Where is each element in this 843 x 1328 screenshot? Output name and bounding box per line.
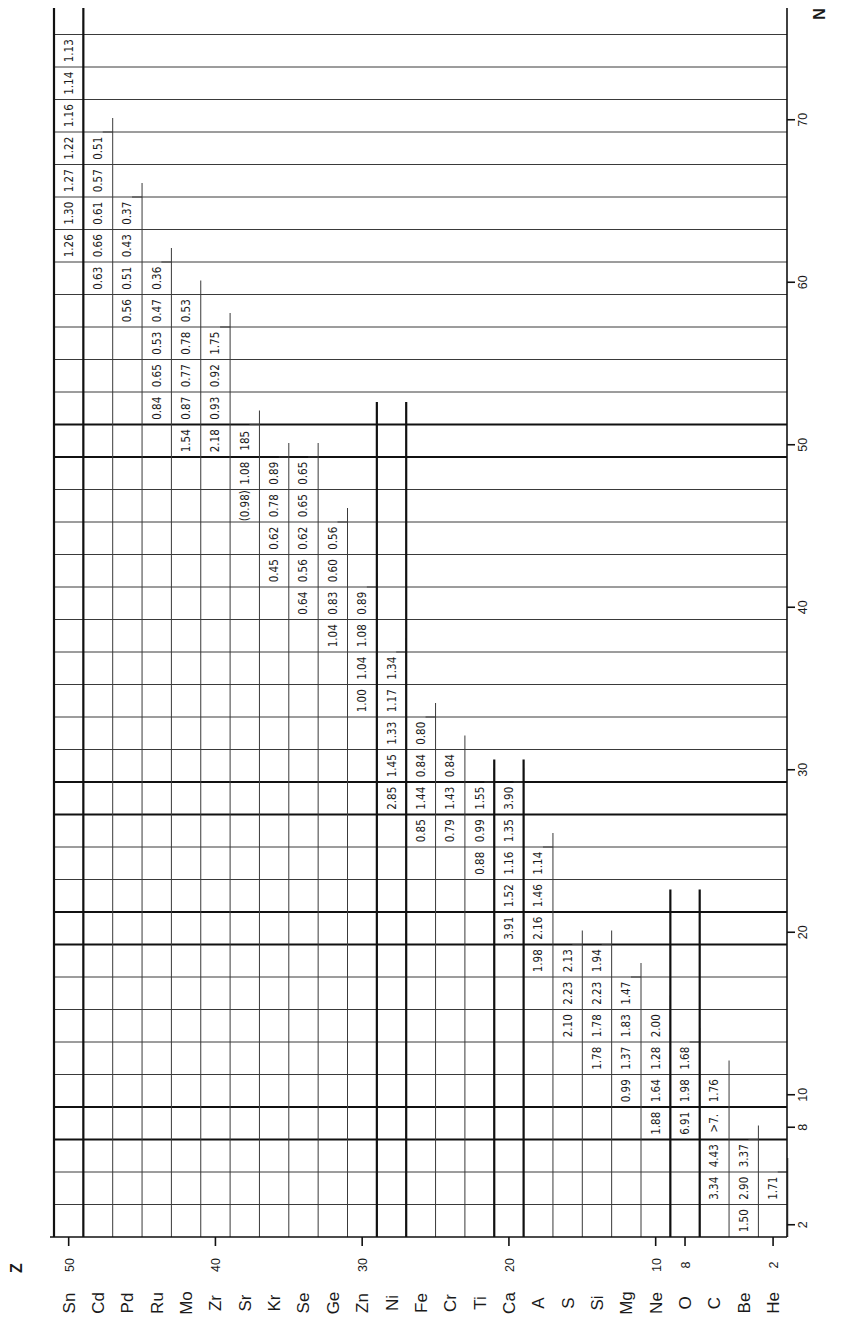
element-symbol: O (676, 1296, 695, 1309)
element-symbol: Ru (148, 1292, 167, 1314)
element-symbol: Ti (471, 1296, 490, 1310)
cell-value: 0.84 (443, 754, 457, 777)
z-tick-label: 50 (63, 1258, 77, 1272)
cell-value: 0.93 (208, 397, 222, 420)
cell-value: 1.68 (678, 1047, 692, 1070)
element-symbol: Fe (412, 1293, 431, 1313)
cell-value: 1.37 (619, 1047, 633, 1070)
cell-value: 0.57 (91, 169, 105, 192)
cell-value: 0.60 (326, 559, 340, 582)
z-axis-title: Z (8, 1263, 25, 1273)
cell-value: 0.89 (355, 592, 369, 615)
cell-value: 1.30 (62, 202, 76, 225)
cell-value: 1.08 (355, 624, 369, 647)
cell-value: 1.33 (385, 722, 399, 745)
element-symbol: S (559, 1297, 578, 1308)
cell-value: 0.51 (91, 137, 105, 160)
cell-value: 0.80 (414, 722, 428, 745)
cell-value: 3.37 (737, 1144, 751, 1167)
cell-value: 1.46 (531, 884, 545, 907)
cell-value: 0.92 (208, 364, 222, 387)
element-symbol: Ne (647, 1292, 666, 1314)
element-symbol: Sr (236, 1294, 255, 1311)
cell-value: 2.10 (561, 1014, 575, 1037)
element-symbol: He (764, 1292, 783, 1314)
cell-value: 1.83 (619, 1014, 633, 1037)
cell-value: 0.88 (473, 852, 487, 875)
element-symbol: Ca (500, 1292, 519, 1314)
cell-value: 0.56 (120, 299, 134, 322)
cell-value: 0.84 (414, 754, 428, 777)
element-symbol: Si (588, 1295, 607, 1310)
n-tick-label: 2 (796, 1221, 810, 1228)
n-axis-title: N (811, 8, 828, 20)
z-tick-label: 10 (650, 1258, 664, 1272)
cell-value: 1.22 (62, 137, 76, 160)
cell-value: 0.65 (296, 462, 310, 485)
cell-value: 1.13 (62, 39, 76, 62)
cell-value: 0.84 (150, 397, 164, 420)
cell-value: 0.53 (179, 299, 193, 322)
cell-value: 0.62 (296, 527, 310, 550)
cell-value: 2.90 (737, 1177, 751, 1200)
n-tick-label: 20 (796, 925, 810, 939)
cell-value: 0.87 (179, 397, 193, 420)
z-tick-label: 20 (503, 1258, 517, 1272)
n-tick-label: 40 (796, 600, 810, 614)
element-symbol: A (529, 1297, 548, 1309)
cell-value: 1.78 (590, 1014, 604, 1037)
z-tick-label: 40 (209, 1258, 223, 1272)
cell-value: 0.99 (619, 1079, 633, 1102)
element-symbol: Cr (441, 1294, 460, 1312)
cell-value: 0.89 (267, 462, 281, 485)
cell-value: 1.44 (414, 787, 428, 810)
cell-value: 0.77 (179, 364, 193, 387)
cell-value: 0.85 (414, 819, 428, 842)
cell-value: 1.14 (62, 72, 76, 95)
cell-value: 1.26 (62, 234, 76, 257)
n-tick-label: 50 (796, 438, 810, 452)
nuclide-chart: 1.131.141.161.221.271.301.260.510.570.61… (0, 0, 843, 1328)
cell-value: 0.51 (120, 267, 134, 290)
cell-value: 1.45 (385, 754, 399, 777)
cell-value: 0.37 (120, 202, 134, 225)
cell-value: 1.47 (619, 982, 633, 1005)
cell-value: >7. (707, 1114, 721, 1133)
cell-value: 1.14 (531, 852, 545, 875)
cell-value: 3.34 (707, 1177, 721, 1200)
cell-value: 1.64 (649, 1079, 663, 1102)
cell-value: 1.17 (385, 689, 399, 712)
cell-value: 1.54 (179, 429, 193, 452)
element-symbol: Sn (60, 1293, 79, 1314)
axes: 504030201082Z2810203040506070N (8, 8, 828, 1273)
cell-value: 0.53 (150, 332, 164, 355)
cell-value: 1.75 (208, 332, 222, 355)
cell-values: 1.131.141.161.221.271.301.260.510.570.61… (62, 39, 780, 1232)
cell-value: 1.35 (502, 819, 516, 842)
cell-value: 0.56 (326, 527, 340, 550)
cell-value: 0.56 (296, 559, 310, 582)
cell-value: 1.34 (385, 657, 399, 680)
n-tick-label: 60 (796, 275, 810, 289)
cell-value: 0.63 (91, 267, 105, 290)
element-symbol: Se (294, 1293, 313, 1314)
cell-value: 1.71 (766, 1177, 780, 1200)
cell-value: 1.43 (443, 787, 457, 810)
cell-value: 0.64 (296, 592, 310, 615)
element-symbol: Mg (617, 1291, 636, 1315)
element-symbol: Ni (383, 1295, 402, 1311)
cell-value: 1.50 (737, 1209, 751, 1232)
n-tick-label: 8 (796, 1124, 810, 1131)
element-symbol: Kr (265, 1294, 284, 1311)
z-tick-label: 30 (356, 1258, 370, 1272)
cell-value: 185 (238, 431, 252, 451)
cell-value: 0.65 (150, 364, 164, 387)
element-symbol: Cd (89, 1292, 108, 1314)
cell-value: 0.78 (179, 332, 193, 355)
cell-value: 0.83 (326, 592, 340, 615)
cell-value: 2.23 (561, 982, 575, 1005)
cell-value: 3.90 (502, 787, 516, 810)
cell-value: 1.28 (649, 1047, 663, 1070)
element-symbol: Be (735, 1293, 754, 1314)
cell-value: 1.98 (678, 1079, 692, 1102)
